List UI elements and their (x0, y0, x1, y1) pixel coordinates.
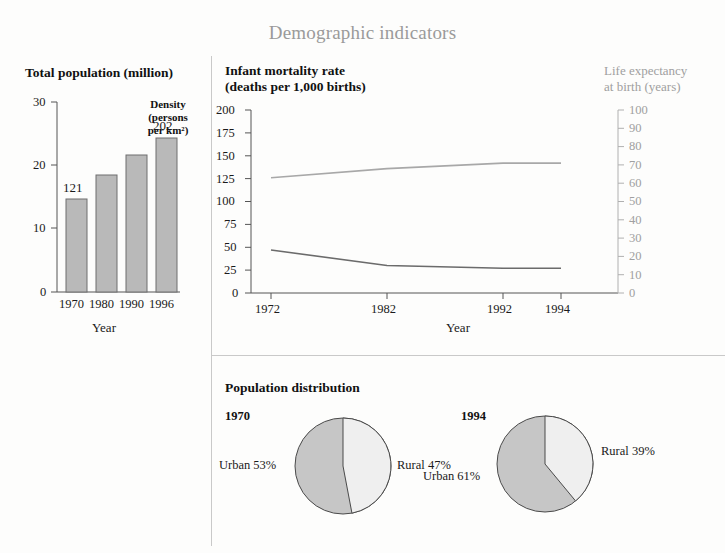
pie-1994 (497, 416, 593, 512)
line-xtick-label-1972: 1972 (255, 302, 280, 317)
bar-ytick-label-0: 0 (40, 285, 46, 300)
bar-annotation-202: 202 (153, 118, 173, 134)
bar-ytick-label-30: 30 (33, 95, 46, 110)
line-xtick-label-1992: 1992 (487, 302, 512, 317)
line-left-y-ticks (245, 110, 251, 293)
line-x-ticks (271, 293, 561, 299)
bar-ytick-label-20: 20 (33, 158, 46, 173)
line-right-y-ticks (618, 110, 624, 293)
bar-1970 (66, 199, 87, 292)
line-xtick-label-1994: 1994 (545, 302, 570, 317)
bar-xtick-label-1980: 1980 (89, 297, 114, 312)
bar-xtick-label-1990: 1990 (119, 297, 144, 312)
bar-1990 (126, 155, 147, 292)
bar-ytick-label-10: 10 (33, 221, 46, 236)
pie-1970-rural-slice (343, 418, 391, 513)
bar-x-axis-label: Year (92, 320, 116, 336)
pie-1994-rural-label: Rural 39% (601, 444, 655, 459)
infant-mortality-line (271, 250, 561, 268)
page-title: Demographic indicators (0, 22, 725, 44)
bar-annotation-121: 121 (63, 180, 83, 196)
pie-1970 (295, 418, 391, 514)
bar-xtick-label-1970: 1970 (59, 297, 84, 312)
total-population-panel: Total population (million) Density (pers… (0, 56, 211, 346)
infant-mortality-life-expectancy-panel: Infant mortality rate (deaths per 1,000 … (211, 56, 725, 355)
line-chart-svg (211, 56, 725, 355)
line-x-axis-label: Year (446, 320, 470, 336)
bar-xtick-label-1996: 1996 (149, 297, 174, 312)
population-distribution-panel: Population distribution 1970 1994 Urban … (211, 356, 725, 553)
pie-1994-urban-label: Urban 61% (423, 469, 480, 484)
line-xtick-label-1982: 1982 (371, 302, 396, 317)
bar-1996 (156, 138, 177, 292)
life-expectancy-line (271, 163, 561, 178)
pie-1970-urban-label: Urban 53% (219, 458, 276, 473)
bar-1980 (96, 175, 117, 292)
demographic-indicators-figure: Demographic indicators Total population … (0, 0, 725, 553)
